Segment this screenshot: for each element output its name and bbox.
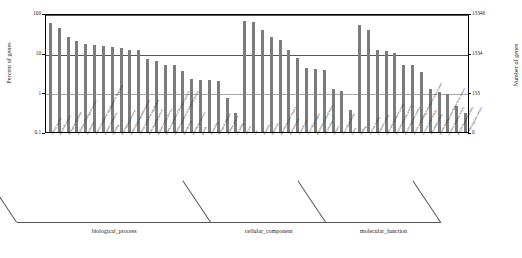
bar: [243, 21, 246, 132]
band-divider-biological_process: [0, 180, 17, 223]
y-tick-right-1334: 1334: [472, 51, 498, 56]
y-tick-left-0.1: 0.1: [19, 130, 41, 135]
y-axis-label-right: Number of genes: [513, 33, 519, 97]
y-tick-right-133: 133: [472, 91, 498, 96]
y-tick-left-10: 10: [19, 51, 41, 56]
bar: [332, 89, 335, 132]
y-tick-right-0: 0: [472, 130, 498, 135]
y-tickmark-left: [42, 14, 45, 15]
bar: [252, 22, 255, 132]
band-divider-end: [412, 180, 441, 223]
band-divider-molecular_function: [297, 180, 326, 223]
bar: [49, 23, 52, 132]
y-tick-left-1: 1: [19, 91, 41, 96]
y-tickmark-right: [468, 14, 471, 15]
bar: [367, 30, 370, 132]
band-bottom-edge: [17, 222, 441, 223]
group-band: biological_processcellular_componentmole…: [0, 180, 522, 232]
bar: [340, 91, 343, 132]
y-tick-right-13346: 13346: [472, 11, 498, 16]
bar: [270, 37, 273, 132]
bar: [358, 25, 361, 132]
y-tickmark-right: [468, 54, 471, 55]
y-tickmark-left: [42, 93, 45, 94]
group-label-molecular_function: molecular_function: [324, 228, 444, 234]
group-label-biological_process: biological_process: [54, 228, 174, 234]
bar: [261, 30, 264, 132]
bar: [93, 45, 96, 132]
bar: [279, 40, 282, 132]
y-tick-left-100: 100: [19, 11, 41, 16]
y-tickmark-left: [42, 133, 45, 134]
go-classification-chart: Percent of genes Number of genes 1001010…: [0, 0, 522, 258]
x-axis-label: cell: [254, 130, 259, 135]
group-label-cellular_component: cellular_component: [209, 228, 329, 234]
y-axis-label-left: Percent of genes: [6, 33, 12, 93]
y-tickmark-left: [42, 54, 45, 55]
band-divider-cellular_component: [183, 180, 212, 223]
y-tickmark-right: [468, 93, 471, 94]
bar: [208, 80, 211, 132]
